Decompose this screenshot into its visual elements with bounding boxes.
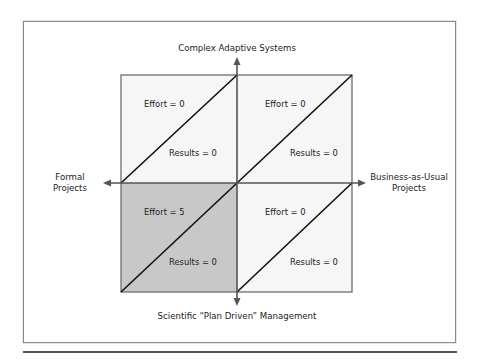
axis-label-right: Business-as-Usual Projects — [366, 172, 452, 194]
arrow-up-icon — [234, 57, 241, 65]
axis-label-left-line1: Formal — [48, 172, 92, 183]
bottom-right-results-label: Results = 0 — [290, 257, 338, 267]
top-left-effort-label: Effort = 0 — [144, 99, 185, 109]
axis-label-right-line1: Business-as-Usual — [366, 172, 452, 183]
arrow-left-icon — [103, 180, 111, 187]
axis-label-left: Formal Projects — [48, 172, 92, 194]
axis-label-left-line2: Projects — [48, 183, 92, 194]
arrow-down-icon — [234, 298, 241, 306]
axis-label-bottom: Scientific “Plan Driven” Management — [117, 311, 357, 322]
bottom-left-effort-label: Effort = 5 — [144, 207, 185, 217]
arrow-right-icon — [358, 180, 366, 187]
top-right-results-label: Results = 0 — [290, 148, 338, 158]
bottom-right-effort-label: Effort = 0 — [265, 207, 306, 217]
axis-label-right-line2: Projects — [366, 183, 452, 194]
top-left-results-label: Results = 0 — [169, 148, 217, 158]
axis-label-top: Complex Adaptive Systems — [137, 43, 337, 54]
bottom-left-results-label: Results = 0 — [169, 257, 217, 267]
top-right-effort-label: Effort = 0 — [265, 99, 306, 109]
